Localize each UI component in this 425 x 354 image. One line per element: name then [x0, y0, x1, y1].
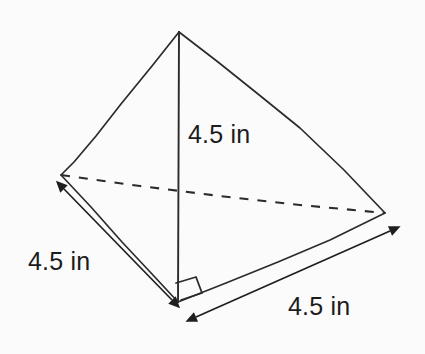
pyramid-figure: [0, 0, 425, 354]
right-edge-dimension-label: 4.5 in: [288, 294, 350, 319]
altitude-line: [178, 32, 179, 302]
diagram-canvas: 4.5 in 4.5 in 4.5 in: [0, 0, 425, 354]
right-angle-marker: [176, 277, 202, 300]
dimension-arrow-left-edge: [64, 189, 172, 300]
left-edge-dimension-label: 4.5 in: [28, 249, 90, 274]
edge-back-left-to-front: [61, 175, 178, 302]
edge-apex-to-back-left: [61, 32, 179, 175]
height-dimension-label: 4.5 in: [188, 122, 250, 147]
edge-front-to-right: [178, 213, 385, 302]
edge-back-left-to-right-hidden: [61, 175, 385, 213]
